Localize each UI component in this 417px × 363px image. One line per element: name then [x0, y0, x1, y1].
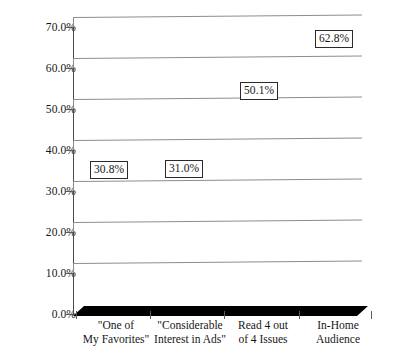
- gridline-60: [74, 55, 362, 59]
- gridline-50: [74, 96, 362, 100]
- gridline-30: [74, 178, 362, 182]
- bar-chart: 70.0% 60.0% 50.0% 40.0% 30.0% 20.0% 10.0…: [0, 0, 417, 363]
- data-label-1: 30.8%: [90, 161, 128, 179]
- gridline-10: [74, 260, 362, 264]
- gridline-riser: [73, 222, 74, 232]
- x-axis-label-3-line1: Read 4 out: [238, 319, 288, 331]
- x-axis-label-4-line2: Audience: [296, 332, 380, 346]
- gridline-riser: [73, 58, 74, 68]
- y-axis-tick-mark: [66, 68, 73, 69]
- x-axis-label-4-line1: In-Home: [317, 319, 359, 331]
- gridline-riser: [73, 181, 74, 191]
- y-axis-tick-mark: [66, 191, 73, 192]
- y-axis-tick-mark: [66, 232, 73, 233]
- y-axis-tick-mark: [66, 109, 73, 110]
- data-label-3: 50.1%: [240, 82, 278, 100]
- gridline-riser: [73, 17, 74, 27]
- gridline-riser: [73, 263, 74, 273]
- y-axis-tick-mark: [66, 150, 73, 151]
- gridline-riser: [73, 140, 74, 150]
- data-label-2: 31.0%: [165, 160, 203, 178]
- x-axis-label-3: Read 4 out of 4 Issues: [218, 318, 308, 346]
- y-axis-tick-mark: [66, 314, 73, 315]
- y-axis-tick-mark: [66, 27, 73, 28]
- gridline-40: [74, 137, 362, 141]
- gridline-20: [74, 219, 362, 223]
- chart-floor: [73, 305, 368, 317]
- data-label-4: 62.8%: [315, 30, 353, 48]
- gridline-riser: [73, 99, 74, 109]
- x-axis-label-1-line1: "One of: [98, 319, 134, 331]
- y-axis-tick-mark: [66, 273, 73, 274]
- gridline-70: [74, 14, 362, 18]
- x-axis-label-3-line2: of 4 Issues: [218, 332, 308, 346]
- x-axis-label-2-line1: "Considerable: [157, 319, 222, 331]
- x-axis-label-4: In-Home Audience: [296, 318, 380, 346]
